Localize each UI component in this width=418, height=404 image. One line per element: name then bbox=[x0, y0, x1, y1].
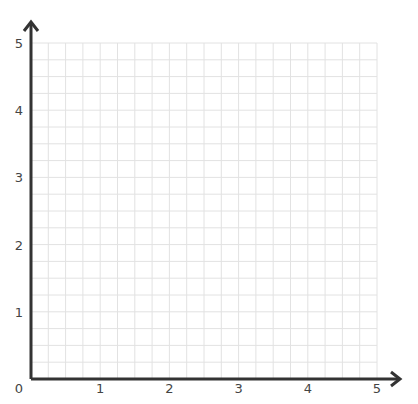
x-tick-label: 5 bbox=[373, 381, 381, 396]
x-tick-label: 4 bbox=[304, 381, 312, 396]
y-tick-label: 3 bbox=[15, 170, 23, 185]
x-tick-label: 3 bbox=[234, 381, 242, 396]
coordinate-grid: 12345123450 bbox=[0, 0, 418, 404]
y-tick-label: 5 bbox=[15, 36, 23, 51]
y-tick-label: 1 bbox=[15, 305, 23, 320]
x-tick-label: 1 bbox=[96, 381, 104, 396]
y-tick-label: 4 bbox=[15, 103, 23, 118]
origin-label: 0 bbox=[15, 381, 23, 396]
x-tick-label: 2 bbox=[165, 381, 173, 396]
y-tick-label: 2 bbox=[15, 238, 23, 253]
